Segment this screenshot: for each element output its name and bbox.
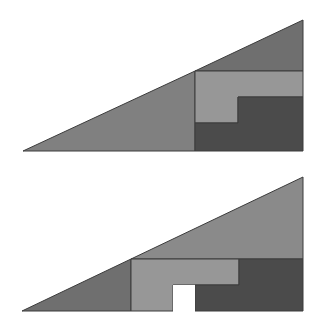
bottom-arrangement	[22, 177, 303, 311]
missing-square-hole	[173, 285, 195, 311]
large-triangle	[23, 71, 195, 151]
puzzle-diagram	[0, 0, 322, 331]
large-triangle	[131, 177, 303, 259]
small-triangle	[22, 259, 131, 311]
top-arrangement	[23, 20, 303, 151]
small-triangle	[195, 20, 303, 71]
